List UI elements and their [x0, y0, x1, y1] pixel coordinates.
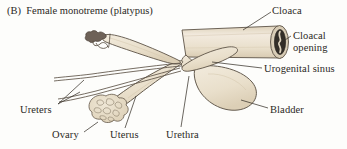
label-bladder: Bladder	[270, 104, 304, 116]
figure-panel-b-female-monotreme: (B) Female monotreme (platypus)	[0, 0, 347, 149]
label-cloacal-opening-line1: Cloacal	[293, 30, 326, 41]
bladder-structure	[194, 66, 256, 111]
label-ureters: Ureters	[20, 104, 52, 116]
label-ovary: Ovary	[52, 129, 79, 141]
anatomy-diagram	[0, 0, 347, 149]
label-urethra: Urethra	[166, 129, 199, 141]
leader-urethra	[181, 76, 189, 127]
cloacal-opening-structure	[274, 30, 285, 55]
leader-ovary	[84, 122, 98, 132]
bladder-sac	[194, 66, 256, 111]
label-cloacal-opening-line2: opening	[293, 42, 328, 53]
ovary-upper-lobes	[85, 31, 106, 43]
label-urogenital-sinus: Urogenital sinus	[264, 63, 335, 75]
label-cloaca: Cloaca	[272, 5, 302, 17]
uterus-upper-structure	[102, 34, 180, 64]
label-uterus: Uterus	[110, 129, 139, 141]
ovary-lower-structure	[89, 94, 128, 122]
label-cloacal-opening: Cloacalopening	[293, 30, 328, 53]
